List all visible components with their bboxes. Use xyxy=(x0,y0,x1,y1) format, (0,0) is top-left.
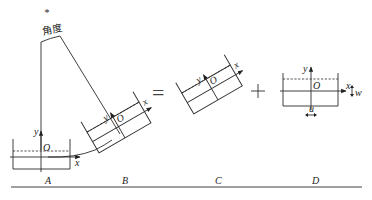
panel-d-y-label: y xyxy=(302,63,308,74)
panel-a-container xyxy=(13,139,70,169)
panel-b-right-wall xyxy=(133,92,139,102)
trajectory-curve xyxy=(48,140,112,157)
panel-b-label: B xyxy=(122,175,128,186)
panel-a: y O x xyxy=(10,126,80,169)
diagram-canvas: * 角度 y O x y O x = y xyxy=(0,0,372,200)
panel-c-left-wall xyxy=(176,83,182,93)
panel-c: y O x xyxy=(176,51,249,114)
panel-c-right-wall xyxy=(224,55,230,65)
angle-annotation: * 角度 xyxy=(41,7,63,42)
panel-d-x-label: x xyxy=(345,80,351,91)
panel-c-label: C xyxy=(215,175,222,186)
equals-sign: = xyxy=(152,80,164,105)
panel-a-origin-label: O xyxy=(43,142,50,153)
angle-arc xyxy=(41,36,60,42)
panel-d-label: D xyxy=(311,175,320,186)
tilted-reference-line xyxy=(60,36,120,134)
panel-b-left-wall xyxy=(81,122,87,132)
panel-c-y-label: y xyxy=(193,73,204,86)
panel-d-container xyxy=(283,73,338,106)
panel-a-y-label: y xyxy=(33,126,39,137)
panel-d: y O x w u xyxy=(280,63,362,117)
angle-label: 角度 xyxy=(41,21,63,37)
panel-a-x-label: x xyxy=(74,157,80,168)
plus-sign xyxy=(251,84,265,98)
panel-b-y-label: y xyxy=(100,111,111,124)
top-marker: * xyxy=(44,7,49,18)
u-label: u xyxy=(309,103,314,114)
panel-a-label: A xyxy=(44,175,52,186)
w-label: w xyxy=(355,87,362,98)
panel-b: y O x xyxy=(81,88,158,153)
panel-d-origin-label: O xyxy=(313,80,320,91)
